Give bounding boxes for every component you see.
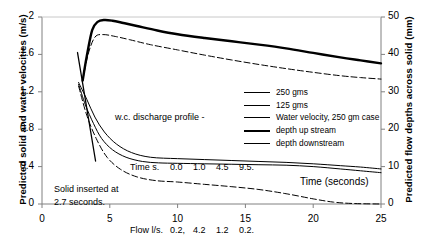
time-value-2: 4.5 — [216, 161, 239, 174]
flow-value-2: 1.2 — [216, 224, 239, 237]
x-axis-tick-label-3: 15 — [230, 213, 260, 224]
solid-note-line-2: 2.7 seconds. — [54, 197, 105, 207]
series-line-3 — [83, 20, 381, 81]
series-line-5 — [78, 53, 96, 161]
chart-container: Predicted solid and water velocities (m/… — [0, 0, 427, 237]
chart-legend: 250 gms125 gmsWater velocity, 250 gm cas… — [244, 86, 379, 149]
y-axis-left-tick-label-5: 2 — [8, 10, 34, 21]
x-axis-tick-label-1: 5 — [95, 213, 125, 224]
legend-swatch-4-icon — [244, 138, 270, 148]
legend-swatch-1-icon — [244, 100, 270, 110]
legend-item-4[interactable]: depth downstream — [244, 136, 379, 149]
time-row-label: Time s. — [130, 161, 170, 174]
y-axis-left-tick-label-4: 1.6 — [8, 47, 34, 58]
x-axis-tick-label-5: 25 — [366, 213, 396, 224]
x-axis-tick-label-2: 10 — [163, 213, 193, 224]
x-axis-tick-label-4: 20 — [298, 213, 328, 224]
flow-value-0: 0.2, — [170, 224, 193, 237]
legend-item-0[interactable]: 250 gms — [244, 86, 379, 99]
legend-label-2: Water velocity, 250 gm case — [276, 112, 379, 122]
y-axis-left-tick-label-0: 0 — [8, 197, 34, 208]
legend-label-0: 250 gms — [276, 87, 308, 97]
y-axis-left-tick-label-1: 0.4 — [8, 160, 34, 171]
time-value-1: 1.0 — [193, 161, 216, 174]
y-axis-left-tick-label-3: 1.2 — [8, 85, 34, 96]
y-axis-right-tick-label-0: 0 — [388, 197, 414, 208]
legend-label-1: 125 gms — [276, 100, 308, 110]
legend-label-4: depth downstream — [276, 138, 344, 148]
x-axis-tick-label-0: 0 — [27, 213, 57, 224]
legend-item-1[interactable]: 125 gms — [244, 99, 379, 112]
y-axis-left-tick-label-2: 0.8 — [8, 122, 34, 133]
x-axis-title: Time (seconds) — [300, 176, 369, 189]
y-axis-right-tick-label-1: 10 — [388, 160, 414, 171]
flow-value-3: 0.2. — [239, 224, 262, 237]
flow-value-1: 4.2 — [193, 224, 216, 237]
time-value-0: 0.0 — [170, 161, 193, 174]
y-axis-right-tick-label-5: 50 — [388, 10, 414, 21]
y-axis-right-tick-label-2: 20 — [388, 122, 414, 133]
legend-item-3[interactable]: depth up stream — [244, 124, 379, 137]
legend-label-3: depth up stream — [276, 125, 336, 135]
y-axis-right-tick-label-3: 30 — [388, 85, 414, 96]
legend-swatch-0-icon — [244, 87, 270, 97]
time-value-3: 9.5. — [239, 161, 262, 174]
flow-row-label: Flow l/s. — [130, 224, 170, 237]
discharge-profile-title: w.c. discharge profile - — [115, 112, 205, 122]
solid-note-line-1: Solid inserted at — [54, 184, 119, 194]
y-axis-right-tick-label-4: 40 — [388, 47, 414, 58]
legend-item-2[interactable]: Water velocity, 250 gm case — [244, 111, 379, 124]
legend-swatch-2-icon — [244, 112, 270, 122]
legend-swatch-3-icon — [244, 125, 270, 135]
